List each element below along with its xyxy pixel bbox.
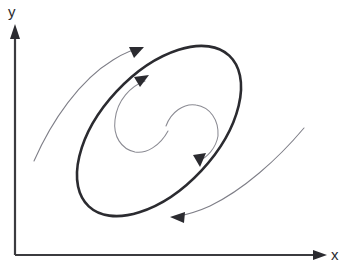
axes-group: x y	[8, 3, 339, 263]
phase-portrait-canvas: x y	[0, 0, 346, 268]
outer-trajectory-lower-right	[175, 128, 304, 217]
outer-trajectory-upper-left	[34, 48, 142, 161]
limit-cycle	[46, 16, 271, 246]
phase-portrait-figure: x y	[0, 0, 346, 268]
arrow-outer-upper-left-icon	[129, 47, 144, 58]
inner-spiral-group	[115, 75, 218, 167]
y-axis-arrowhead-icon	[10, 24, 20, 39]
inner-spiral-arm-1	[115, 81, 168, 152]
inner-spiral-arm-2	[166, 105, 218, 161]
arrow-outer-lower-right-icon	[170, 212, 185, 223]
x-axis-arrowhead-icon	[313, 250, 327, 260]
limit-cycle-group	[46, 16, 271, 246]
x-axis-label: x	[331, 246, 339, 263]
y-axis-label: y	[8, 3, 16, 20]
arrow-inner-lower-right-icon	[193, 153, 206, 167]
